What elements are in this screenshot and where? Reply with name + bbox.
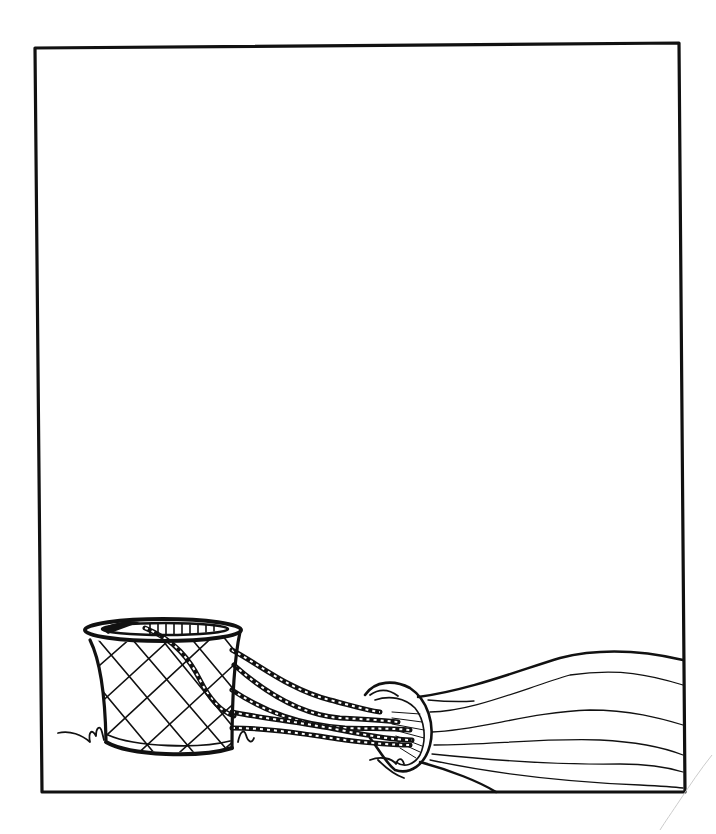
wicker-basket (30, 619, 300, 770)
illustration-canvas (0, 0, 716, 834)
balloon-envelope (418, 651, 683, 792)
